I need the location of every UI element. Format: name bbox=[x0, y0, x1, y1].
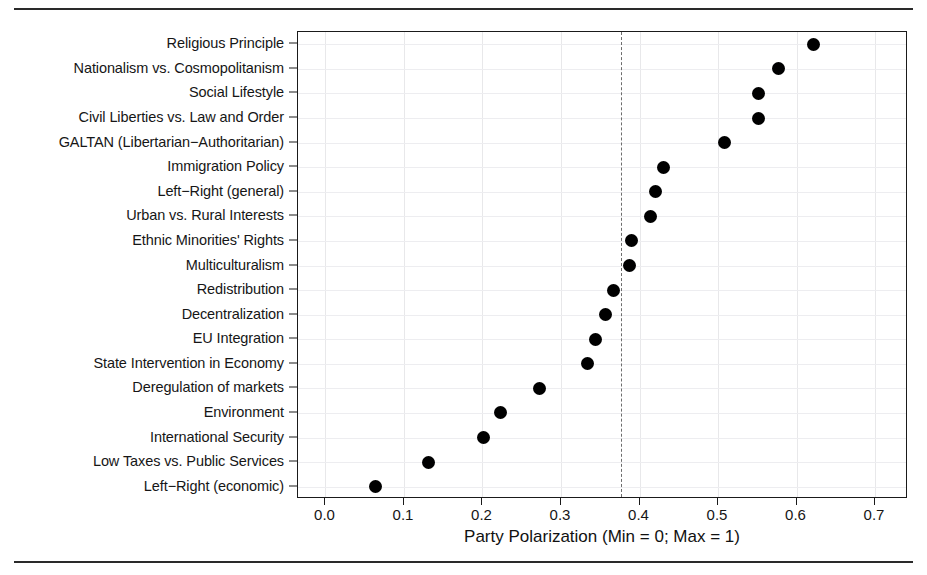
y-axis-tick bbox=[289, 141, 297, 142]
data-point-marker bbox=[599, 308, 612, 321]
data-point-marker bbox=[589, 333, 602, 346]
x-axis-tick-label: 0.6 bbox=[785, 506, 806, 523]
data-point-marker bbox=[752, 112, 765, 125]
y-axis-tick bbox=[289, 43, 297, 44]
x-axis-tick bbox=[560, 498, 561, 505]
y-axis-category-label: Left−Right (economic) bbox=[144, 478, 284, 494]
data-point-marker bbox=[752, 87, 765, 100]
y-axis-tick bbox=[289, 461, 297, 462]
x-axis-tick-label: 0.3 bbox=[550, 506, 571, 523]
y-axis-category-label: International Security bbox=[150, 429, 284, 445]
gridline-horizontal bbox=[298, 118, 906, 119]
x-axis-tick bbox=[639, 498, 640, 505]
data-point-marker bbox=[607, 284, 620, 297]
top-rule bbox=[14, 8, 913, 10]
y-axis-tick bbox=[289, 289, 297, 290]
x-axis-tick bbox=[874, 498, 875, 505]
data-point-marker bbox=[581, 357, 594, 370]
gridline-horizontal bbox=[298, 487, 906, 488]
x-axis-tick-label: 0.0 bbox=[314, 506, 335, 523]
gridline-horizontal bbox=[298, 388, 906, 389]
y-axis-category-label: Decentralization bbox=[182, 306, 284, 322]
y-axis-tick bbox=[289, 239, 297, 240]
y-axis-category-label: Social Lifestyle bbox=[189, 84, 284, 100]
data-point-marker bbox=[625, 234, 638, 247]
y-axis-category-label: Left−Right (general) bbox=[157, 183, 284, 199]
bottom-rule bbox=[14, 561, 913, 563]
y-axis-category-label: Urban vs. Rural Interests bbox=[126, 207, 284, 223]
y-axis-tick bbox=[289, 215, 297, 216]
gridline-horizontal bbox=[298, 241, 906, 242]
data-point-marker bbox=[649, 185, 662, 198]
y-axis-category-label: Religious Principle bbox=[167, 35, 284, 51]
data-point-marker bbox=[422, 456, 435, 469]
x-axis-tick-label: 0.5 bbox=[707, 506, 728, 523]
gridline-horizontal bbox=[298, 290, 906, 291]
gridline-horizontal bbox=[298, 93, 906, 94]
y-axis-category-label: Redistribution bbox=[197, 281, 284, 297]
data-point-marker bbox=[657, 161, 670, 174]
gridline-vertical bbox=[561, 32, 562, 497]
data-point-marker bbox=[772, 62, 785, 75]
reference-line bbox=[621, 32, 622, 497]
y-axis-category-label: Multiculturalism bbox=[186, 257, 284, 273]
data-point-marker bbox=[369, 480, 382, 493]
x-axis-tick-label: 0.2 bbox=[471, 506, 492, 523]
y-axis-category-label: Ethnic Minorities' Rights bbox=[132, 232, 284, 248]
figure-container: Religious PrincipleNationalism vs. Cosmo… bbox=[0, 0, 927, 575]
y-axis-tick bbox=[289, 387, 297, 388]
gridline-vertical bbox=[797, 32, 798, 497]
y-axis-tick bbox=[289, 190, 297, 191]
y-axis-tick bbox=[289, 166, 297, 167]
gridline-vertical bbox=[325, 32, 326, 497]
gridline-horizontal bbox=[298, 69, 906, 70]
x-axis-tick bbox=[796, 498, 797, 505]
y-axis-tick bbox=[289, 485, 297, 486]
gridline-horizontal bbox=[298, 413, 906, 414]
y-axis-category-label: Low Taxes vs. Public Services bbox=[93, 453, 284, 469]
y-axis-tick bbox=[289, 92, 297, 93]
gridline-vertical bbox=[718, 32, 719, 497]
x-axis-tick-label: 0.1 bbox=[393, 506, 414, 523]
plot-area bbox=[297, 31, 907, 498]
gridline-vertical bbox=[404, 32, 405, 497]
x-axis-tick-label: 0.4 bbox=[628, 506, 649, 523]
y-axis-tick bbox=[289, 264, 297, 265]
y-axis-tick bbox=[289, 338, 297, 339]
data-point-marker bbox=[644, 210, 657, 223]
data-point-marker bbox=[477, 431, 490, 444]
data-point-marker bbox=[718, 136, 731, 149]
gridline-horizontal bbox=[298, 192, 906, 193]
data-point-marker bbox=[533, 382, 546, 395]
y-axis-tick bbox=[289, 362, 297, 363]
gridline-horizontal bbox=[298, 364, 906, 365]
gridline-horizontal bbox=[298, 167, 906, 168]
gridline-horizontal bbox=[298, 462, 906, 463]
x-axis-title: Party Polarization (Min = 0; Max = 1) bbox=[297, 527, 907, 547]
y-axis-category-label: Deregulation of markets bbox=[132, 379, 284, 395]
y-axis-tick bbox=[289, 67, 297, 68]
y-axis-category-label: State Intervention in Economy bbox=[93, 355, 284, 371]
x-axis: 0.00.10.20.30.40.50.60.7 bbox=[297, 498, 907, 528]
y-axis-category-label: Environment bbox=[204, 404, 284, 420]
x-axis-tick bbox=[403, 498, 404, 505]
y-axis-tick bbox=[289, 436, 297, 437]
y-axis: Religious PrincipleNationalism vs. Cosmo… bbox=[0, 31, 297, 498]
gridline-horizontal bbox=[298, 266, 906, 267]
gridline-vertical bbox=[640, 32, 641, 497]
x-axis-tick bbox=[481, 498, 482, 505]
y-axis-category-label: EU Integration bbox=[193, 330, 284, 346]
y-axis-category-label: Civil Liberties vs. Law and Order bbox=[79, 109, 284, 125]
x-axis-tick bbox=[324, 498, 325, 505]
gridline-horizontal bbox=[298, 438, 906, 439]
gridline-horizontal bbox=[298, 143, 906, 144]
data-point-marker bbox=[494, 406, 507, 419]
y-axis-tick bbox=[289, 411, 297, 412]
y-axis-tick bbox=[289, 117, 297, 118]
gridline-vertical bbox=[482, 32, 483, 497]
gridline-horizontal bbox=[298, 216, 906, 217]
y-axis-category-label: Nationalism vs. Cosmopolitanism bbox=[74, 60, 284, 76]
x-axis-tick-label: 0.7 bbox=[864, 506, 885, 523]
x-axis-tick bbox=[717, 498, 718, 505]
y-axis-tick bbox=[289, 313, 297, 314]
